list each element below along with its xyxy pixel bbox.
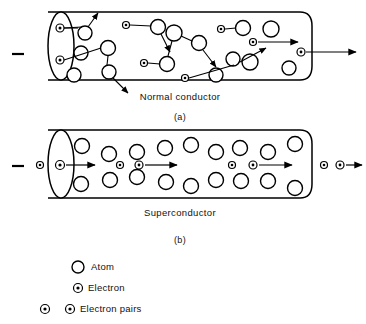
panel-a-caption: Normal conductor: [140, 91, 221, 102]
superconductor-figure: Normal conductor (a): [0, 0, 366, 324]
panel-a-group: Normal conductor (a): [12, 12, 356, 122]
legend-item-electron: Electron: [74, 282, 125, 293]
electron-icon: [74, 284, 83, 293]
figure-canvas: Normal conductor (a): [0, 0, 366, 324]
legend-label-atom: Atom: [91, 261, 114, 272]
panel-b-subcaption: (b): [174, 235, 186, 245]
legend: Atom Electron Electron pairs: [41, 261, 142, 314]
panel-b-atoms: [74, 137, 303, 196]
panel-a-subcaption: (a): [174, 112, 186, 122]
legend-label-electron: Electron: [88, 282, 125, 293]
electron-pair-icon: [41, 305, 75, 314]
panel-b-caption: Superconductor: [144, 207, 216, 218]
legend-item-electron-pairs: Electron pairs: [41, 303, 142, 314]
legend-label-electron-pairs: Electron pairs: [80, 303, 142, 314]
atom-icon: [72, 261, 84, 273]
panel-b-group: Superconductor (b): [12, 130, 362, 245]
legend-item-atom: Atom: [72, 261, 114, 273]
